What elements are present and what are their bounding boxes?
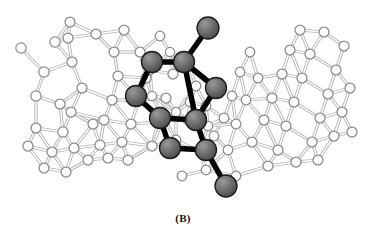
host-atom xyxy=(47,147,57,157)
host-atom xyxy=(77,83,87,93)
guest-atom xyxy=(150,108,171,129)
host-atom xyxy=(69,143,79,153)
host-atom xyxy=(289,97,299,107)
host-atom xyxy=(123,155,133,165)
host-atom xyxy=(337,107,347,117)
host-atom xyxy=(67,57,77,67)
host-atom xyxy=(147,91,156,100)
host-atom xyxy=(66,107,76,117)
host-atom xyxy=(345,83,355,93)
host-atom xyxy=(347,127,357,137)
host-atom xyxy=(39,67,49,77)
guest-atom xyxy=(126,86,147,107)
host-atom xyxy=(313,155,323,165)
host-atom xyxy=(253,73,263,83)
host-atom xyxy=(147,141,157,151)
host-atom xyxy=(83,155,93,165)
guest-atom xyxy=(160,138,181,159)
panel-label: (B) xyxy=(0,211,366,225)
host-atom xyxy=(295,25,305,35)
molecular-structure-figure: (B) xyxy=(0,0,366,237)
host-atom xyxy=(95,140,105,150)
host-atom xyxy=(307,137,317,147)
host-atom xyxy=(50,37,60,47)
host-atom xyxy=(191,81,201,91)
host-atom xyxy=(161,93,171,103)
guest-atom xyxy=(196,140,217,161)
host-atom xyxy=(91,29,101,39)
host-atom xyxy=(155,31,165,41)
host-atom xyxy=(201,165,211,175)
host-atom xyxy=(227,91,237,101)
host-atom xyxy=(297,73,307,83)
host-atom xyxy=(209,131,219,141)
host-atom xyxy=(126,119,136,129)
host-atom xyxy=(58,127,68,137)
host-atom xyxy=(277,69,287,79)
host-atom xyxy=(245,47,255,57)
host-atom xyxy=(177,171,187,181)
host-atom xyxy=(99,115,109,125)
host-atom xyxy=(231,119,241,129)
host-atom xyxy=(235,67,245,77)
host-atom xyxy=(285,45,295,55)
host-atom xyxy=(65,17,75,27)
host-atom xyxy=(319,27,329,37)
host-atom xyxy=(219,113,229,123)
guest-atom xyxy=(206,78,227,99)
host-atom xyxy=(291,157,301,167)
host-atom xyxy=(119,25,129,35)
guest-atom xyxy=(215,175,237,197)
host-atom xyxy=(267,93,277,103)
host-atom xyxy=(339,41,349,51)
host-atom xyxy=(171,107,180,116)
host-atom xyxy=(329,131,339,141)
host-atom xyxy=(331,65,341,75)
guest-atom xyxy=(197,17,219,39)
structure-canvas xyxy=(0,0,366,237)
host-atom xyxy=(241,95,251,105)
host-atom xyxy=(247,137,257,147)
host-atom xyxy=(23,141,33,151)
host-atom xyxy=(113,71,123,81)
host-atom xyxy=(55,99,65,109)
host-atom xyxy=(107,95,117,105)
host-atom xyxy=(165,47,174,56)
host-atom xyxy=(315,113,325,123)
host-atom xyxy=(305,49,315,59)
host-atom xyxy=(39,163,49,173)
host-atom xyxy=(61,167,71,177)
host-atom xyxy=(16,43,26,53)
host-atom xyxy=(31,91,41,101)
host-atom xyxy=(63,33,73,43)
host-atom xyxy=(323,89,333,99)
guest-atom xyxy=(142,52,163,73)
host-atom xyxy=(88,119,98,129)
guest-atom xyxy=(174,52,195,73)
host-atom xyxy=(168,69,178,79)
host-atom xyxy=(273,145,283,155)
host-atom xyxy=(259,115,269,125)
host-atom xyxy=(109,47,119,57)
guest-atom xyxy=(186,110,207,131)
host-atom xyxy=(103,153,113,163)
host-atom xyxy=(263,161,273,171)
host-atom xyxy=(281,121,291,131)
host-atom xyxy=(117,137,127,147)
host-atom xyxy=(223,145,233,155)
host-atom xyxy=(31,123,41,133)
